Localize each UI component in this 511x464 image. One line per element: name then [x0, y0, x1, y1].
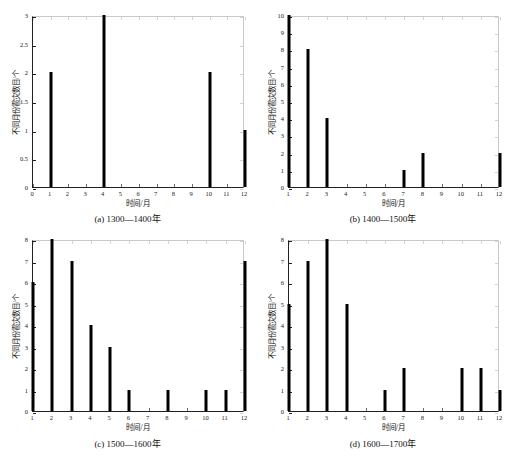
- y-tick-label-c-5: 5: [10, 301, 28, 309]
- y-tick-label-d-8: 8: [266, 236, 284, 244]
- y-tick-label-a-2: 2: [10, 69, 28, 77]
- x-tick-a-0: [33, 184, 34, 187]
- x-tick-label-d-12: 12: [496, 414, 503, 422]
- y-tick-label-d-7: 7: [266, 258, 284, 266]
- x-tick-label-c-12: 12: [241, 414, 248, 422]
- x-tick-top-c-11: [226, 241, 227, 244]
- bar-c-month-11: [224, 390, 227, 412]
- x-tick-top-a-12: [245, 17, 246, 20]
- x-tick-label-d-1: 1: [286, 414, 289, 422]
- x-tick-label-c-8: 8: [165, 414, 168, 422]
- y-tick-label-b-3: 3: [266, 132, 284, 140]
- x-tick-top-b-9: [442, 17, 443, 20]
- plot-area-b: [288, 16, 499, 188]
- x-tick-label-c-11: 11: [222, 414, 228, 422]
- x-tick-label-d-4: 4: [344, 414, 347, 422]
- y-tick-label-c-7: 7: [10, 258, 28, 266]
- x-tick-top-c-6: [129, 241, 130, 244]
- bar-a-month-10: [208, 72, 211, 187]
- bar-c-month-3: [70, 261, 73, 412]
- axes-a: [32, 16, 244, 188]
- y-tick-label-a-0.5: 0.5: [10, 155, 28, 163]
- plot-area-c: [32, 240, 244, 412]
- x-tick-label-a-1: 1: [48, 190, 51, 198]
- y-tick-right-b-5: [495, 103, 498, 104]
- x-tick-label-c-2: 2: [50, 414, 53, 422]
- bar-d-month-7: [403, 368, 406, 411]
- y-tick-label-d-3: 3: [266, 344, 284, 352]
- y-tick-label-b-9: 9: [266, 29, 284, 37]
- y-tick-right-c-8: [240, 241, 243, 242]
- x-tick-a-11: [227, 184, 228, 187]
- y-tick-a-3: [33, 17, 36, 18]
- x-tick-a-7: [157, 184, 158, 187]
- x-tick-top-c-7: [149, 241, 150, 244]
- bar-c-month-6: [128, 390, 131, 412]
- bar-c-month-12: [244, 261, 247, 412]
- y-tick-a-1.5: [33, 103, 36, 104]
- bar-c-month-4: [89, 325, 92, 411]
- x-tick-top-a-3: [86, 17, 87, 20]
- y-tick-right-b-9: [495, 34, 498, 35]
- x-axis-title-b: 时间/月: [288, 199, 499, 208]
- bar-d-month-10: [460, 368, 463, 411]
- y-tick-label-c-4: 4: [10, 322, 28, 330]
- x-tick-label-b-3: 3: [325, 190, 328, 198]
- x-tick-top-a-6: [139, 17, 140, 20]
- y-tick-label-d-1: 1: [266, 387, 284, 395]
- y-tick-right-b-3: [495, 137, 498, 138]
- y-tick-right-d-6: [495, 284, 498, 285]
- x-tick-a-8: [174, 184, 175, 187]
- y-tick-right-d-8: [495, 241, 498, 242]
- y-tick-label-b-1: 1: [266, 167, 284, 175]
- bar-c-month-10: [205, 390, 208, 412]
- y-tick-c-8: [33, 241, 36, 242]
- x-tick-top-c-3: [72, 241, 73, 244]
- x-tick-label-d-10: 10: [457, 414, 464, 422]
- x-tick-label-a-0: 0: [30, 190, 33, 198]
- x-tick-top-c-4: [91, 241, 92, 244]
- x-tick-label-c-6: 6: [127, 414, 130, 422]
- x-tick-label-b-5: 5: [363, 190, 366, 198]
- y-tick-label-b-6: 6: [266, 81, 284, 89]
- y-tick-a-2.5: [33, 46, 36, 47]
- x-tick-top-c-9: [187, 241, 188, 244]
- bar-b-month-12: [499, 153, 502, 187]
- y-tick-label-c-6: 6: [10, 279, 28, 287]
- x-tick-label-a-8: 8: [172, 190, 175, 198]
- x-tick-label-d-5: 5: [363, 414, 366, 422]
- x-tick-label-c-4: 4: [88, 414, 91, 422]
- x-tick-label-b-12: 12: [496, 190, 503, 198]
- y-tick-label-d-2: 2: [266, 365, 284, 373]
- y-tick-d-6: [289, 284, 292, 285]
- y-tick-label-b-5: 5: [266, 98, 284, 106]
- x-tick-top-b-12: [500, 17, 501, 20]
- bar-b-month-2: [307, 49, 310, 187]
- x-tick-d-5: [366, 408, 367, 411]
- x-tick-label-c-7: 7: [146, 414, 149, 422]
- bar-d-month-3: [326, 239, 329, 411]
- y-tick-right-d-4: [495, 327, 498, 328]
- bar-c-month-2: [51, 239, 54, 411]
- x-axis-title-c: 时间/月: [32, 423, 244, 432]
- x-tick-top-a-1: [51, 17, 52, 20]
- y-tick-right-a-2: [240, 74, 243, 75]
- chart-panel-c: 时间/月 不同月份雹灾数目/个 (c) 1500—1600年 123456789…: [0, 230, 255, 464]
- x-tick-top-b-5: [366, 17, 367, 20]
- y-tick-label-a-0: 0: [10, 184, 28, 192]
- bar-d-month-2: [307, 261, 310, 412]
- x-tick-top-b-2: [308, 17, 309, 20]
- bar-d-month-4: [345, 304, 348, 412]
- y-tick-label-c-3: 3: [10, 344, 28, 352]
- y-tick-a-2: [33, 74, 36, 75]
- x-tick-label-a-11: 11: [223, 190, 229, 198]
- x-tick-d-9: [442, 408, 443, 411]
- x-tick-label-a-6: 6: [136, 190, 139, 198]
- bar-d-month-6: [383, 390, 386, 412]
- x-tick-label-a-4: 4: [101, 190, 104, 198]
- x-tick-label-d-6: 6: [382, 414, 385, 422]
- y-tick-right-b-8: [495, 51, 498, 52]
- x-tick-a-6: [139, 184, 140, 187]
- y-tick-label-b-0: 0: [266, 184, 284, 192]
- x-tick-top-b-7: [404, 17, 405, 20]
